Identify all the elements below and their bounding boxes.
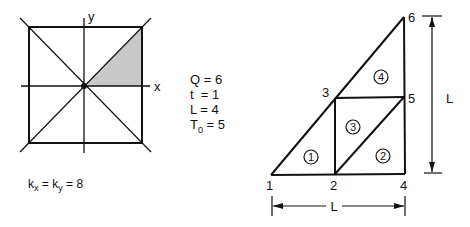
element-label-2: 2 (380, 150, 386, 162)
node-label-3: 3 (322, 85, 329, 100)
edge-3-5 (335, 97, 404, 98)
edge-2-5 (335, 97, 404, 174)
param-T0: T0 = 5 (190, 117, 225, 138)
square-plate-figure (20, 18, 151, 153)
arrow-down-icon (429, 162, 435, 172)
arrow-right-icon (394, 203, 404, 209)
vertical-dim-label: L (446, 91, 453, 106)
node-label-2: 2 (330, 178, 337, 193)
param-t: t = 1 (190, 87, 225, 102)
conductivity-label: kx = ky = 8 (28, 177, 83, 193)
arrow-up-icon (429, 17, 435, 27)
node-label-4: 4 (400, 178, 407, 193)
param-Q: Q = 6 (190, 72, 225, 87)
center-point (81, 83, 87, 89)
x-axis-label: x (154, 79, 161, 94)
element-label-1: 1 (308, 151, 314, 163)
horizontal-dim-label: L (330, 199, 337, 214)
parameter-list: Q = 6 t = 1 L = 4 T0 = 5 (190, 72, 225, 138)
y-axis-label: y (88, 9, 95, 24)
node-label-6: 6 (408, 10, 415, 25)
vertical-dimension (422, 16, 442, 173)
horizontal-dimension (272, 196, 405, 216)
node-label-5: 5 (408, 91, 415, 106)
edge-1-4 (271, 174, 405, 175)
node-label-1: 1 (266, 178, 273, 193)
arrow-left-icon (273, 203, 283, 209)
param-L: L = 4 (190, 102, 225, 117)
edge-6-4 (404, 17, 405, 174)
element-label-4: 4 (378, 71, 384, 83)
element-label-3: 3 (350, 121, 356, 133)
node-labels: 1 2 3 4 5 6 (266, 10, 415, 193)
